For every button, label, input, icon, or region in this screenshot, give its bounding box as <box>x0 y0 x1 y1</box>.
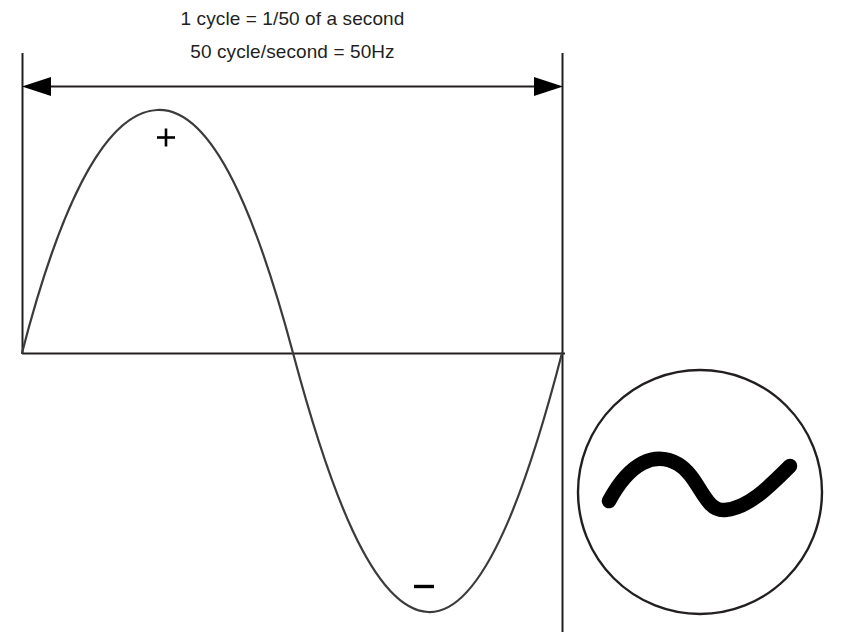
cycle-caption-block: 1 cycle = 1/50 of a second 50 cycle/seco… <box>0 0 585 70</box>
ac-waveform-diagram <box>0 0 843 633</box>
caption-cycle-duration: 1 cycle = 1/50 of a second <box>0 8 585 30</box>
alternating-current-tilde-icon <box>609 459 790 510</box>
ac-source-symbol <box>578 370 822 614</box>
caption-frequency: 50 cycle/second = 50Hz <box>0 41 585 63</box>
sine-wave-curve <box>22 110 562 612</box>
cycle-span-arrowhead-right <box>534 77 563 96</box>
cycle-span-arrow <box>22 77 563 96</box>
cycle-span-arrowhead-left <box>22 77 51 96</box>
positive-polarity-sign <box>157 129 175 147</box>
diagram-canvas: 1 cycle = 1/50 of a second 50 cycle/seco… <box>0 0 843 633</box>
